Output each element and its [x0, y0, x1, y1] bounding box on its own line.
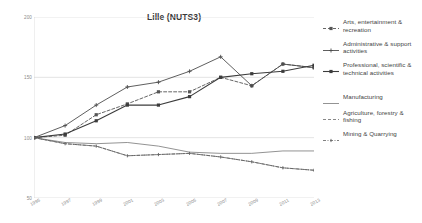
plot-area [34, 17, 314, 198]
x-axis-tick-label: 2005 [185, 198, 197, 207]
legend-item-label: Administrative & support activities [343, 40, 422, 55]
x-axis: 1995199719992001200320052007200920112013 [34, 200, 314, 218]
x-axis-tick-label: 2001 [123, 198, 135, 207]
y-axis-tick-label: 100 [6, 135, 32, 140]
y-axis-tick-label: 150 [6, 75, 32, 80]
data-point-marker [188, 95, 191, 98]
data-point-marker [157, 90, 160, 93]
y-axis-tick-label: 200 [6, 15, 32, 20]
legend-item-label: Mining & Quarrying [343, 130, 397, 138]
legend-item-label: Agriculture, forestry & fishing [343, 109, 422, 124]
data-point-marker [188, 90, 191, 93]
legend-item-label: Manufacturing [343, 93, 383, 101]
x-axis-tick-label: 1999 [92, 198, 104, 207]
data-point-marker [219, 76, 222, 79]
x-axis-tick-label: 2007 [216, 198, 228, 207]
data-point-marker [126, 103, 129, 106]
data-point-marker [157, 103, 160, 106]
x-axis-tick-label: 2013 [309, 198, 321, 207]
data-point-marker [281, 70, 284, 73]
solid-plus-marker-icon [322, 41, 340, 50]
dash-dot-marker-icon [322, 131, 340, 140]
solid-line-icon [322, 94, 340, 103]
legend-item[interactable]: Administrative & support activities [322, 40, 422, 55]
solid-square-marker-icon [322, 62, 340, 71]
data-point-marker [64, 132, 67, 135]
data-point-marker [156, 80, 160, 84]
dashed-square-marker-icon [322, 19, 340, 28]
x-axis-tick-label: 2009 [247, 198, 259, 207]
data-point-marker [125, 85, 129, 89]
data-point-marker [250, 72, 253, 75]
legend-item-label: Arts, entertainment & recreation [343, 18, 422, 33]
data-point-marker [95, 119, 98, 122]
legend-item[interactable]: Mining & Quarrying [322, 130, 422, 139]
x-axis-tick-label: 2003 [154, 198, 166, 207]
chart-container: Lille (NUTS3) 20015010050 19951997199920… [0, 0, 422, 223]
data-point-marker [95, 113, 98, 116]
series-line [34, 138, 314, 154]
legend-item[interactable]: Professional, scientific & technical act… [322, 61, 422, 76]
series-line [34, 57, 314, 138]
dashed-line-icon [322, 110, 340, 119]
series-line [34, 65, 314, 137]
data-point-marker [188, 69, 192, 73]
y-axis-tick-label: 50 [6, 196, 32, 201]
plot-svg [34, 17, 314, 198]
x-axis-tick-label: 2011 [278, 198, 289, 207]
chart-legend: Arts, entertainment & recreationAdminist… [322, 18, 422, 146]
legend-item[interactable]: Arts, entertainment & recreation [322, 18, 422, 33]
legend-item[interactable]: Manufacturing [322, 93, 422, 102]
legend-item-label: Professional, scientific & technical act… [343, 61, 422, 76]
legend-group-spacer [322, 83, 422, 93]
y-axis: 20015010050 [0, 0, 32, 223]
legend-item[interactable]: Agriculture, forestry & fishing [322, 109, 422, 124]
x-axis-tick-label: 1997 [60, 198, 72, 207]
data-point-marker [312, 64, 314, 67]
